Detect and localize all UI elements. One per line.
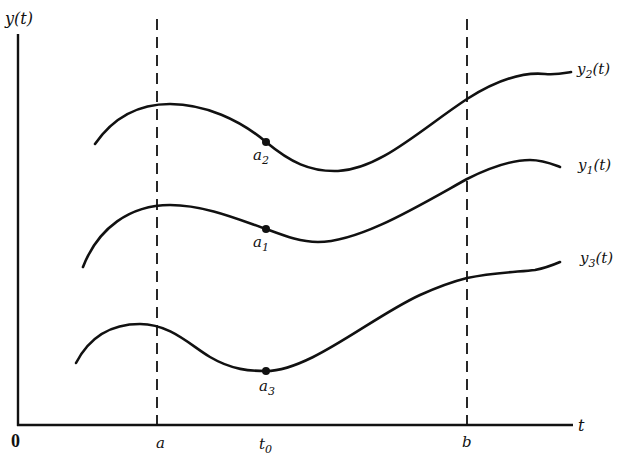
point-a1 — [262, 225, 270, 233]
origin-label: 0 — [11, 431, 20, 451]
curve-y3 — [76, 262, 560, 371]
curve-y2 — [95, 72, 571, 171]
tick-label-t0: t0 — [259, 435, 272, 456]
point-label-a3: a3 — [259, 377, 275, 398]
point-label-a1: a1 — [253, 233, 269, 254]
y-axis-label: y(t) — [4, 9, 33, 28]
tick-label-b: b — [462, 433, 472, 451]
curve-label-y1: y1(t) — [577, 156, 611, 177]
point-a3 — [262, 367, 270, 375]
x-axis-label: t — [578, 416, 585, 435]
tick-label-a: a — [156, 434, 165, 452]
point-label-a2: a2 — [253, 146, 269, 167]
curve-label-y2: y2(t) — [576, 60, 610, 81]
point-a2 — [262, 138, 270, 146]
diagram-figure: y(t) t 0 a t0 b a2 a1 a3 y2(t) y1(t) y3(… — [0, 0, 626, 469]
curve-y1 — [83, 160, 560, 267]
curve-label-y3: y3(t) — [579, 249, 613, 270]
